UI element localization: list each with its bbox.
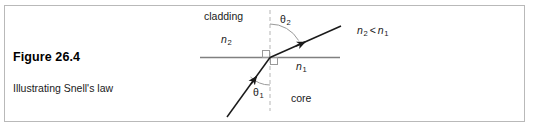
region-label-cladding: cladding (204, 10, 243, 22)
angle-label-theta1: θ1 (253, 86, 264, 100)
inequality-right-symbol: n (378, 24, 384, 36)
refracted-ray-arrowhead (296, 42, 305, 46)
index-label-n1-symbol: n (296, 60, 302, 72)
angle-label-theta1-symbol: θ (253, 86, 259, 98)
figure-panel: Figure 26.4 Illustrating Snell's law cla… (0, 0, 535, 134)
index-label-n1: n1 (296, 60, 307, 74)
index-label-n2: n2 (221, 33, 232, 47)
right-angle-marker-upper (263, 51, 270, 58)
inequality-right-subscript: 1 (384, 29, 389, 38)
index-label-n2-subscript: 2 (227, 38, 232, 47)
index-label-n1-subscript: 1 (302, 65, 307, 74)
index-label-n2-symbol: n (221, 33, 227, 45)
right-angle-marker-lower (271, 58, 278, 65)
region-label-core: core (291, 92, 311, 104)
inequality-operator: < (368, 24, 378, 36)
refracted-ray (270, 26, 341, 58)
snells-law-diagram (0, 0, 535, 134)
inequality-left-subscript: 2 (363, 29, 368, 38)
angle-label-theta1-subscript: 1 (259, 91, 264, 100)
angle-label-theta2-subscript: 2 (286, 18, 291, 27)
index-inequality-label: n2<n1 (357, 24, 388, 38)
angle-label-theta2-symbol: θ (280, 13, 286, 25)
inequality-left-symbol: n (357, 24, 363, 36)
angle-label-theta2: θ2 (280, 13, 291, 27)
